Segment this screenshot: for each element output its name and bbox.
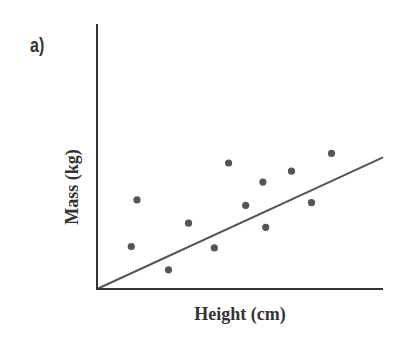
data-point [242, 202, 249, 209]
scatter-chart: Height (cm) Mass (kg) [0, 0, 407, 343]
x-axis-label: Height (cm) [194, 304, 285, 325]
data-point [288, 168, 295, 175]
data-point [328, 150, 335, 157]
trend-line [97, 157, 383, 289]
data-point [259, 179, 266, 186]
data-point [308, 199, 315, 206]
data-point [185, 220, 192, 227]
data-point [262, 224, 269, 231]
data-point [165, 266, 172, 273]
data-point [133, 196, 140, 203]
data-points [128, 150, 335, 274]
data-point [128, 243, 135, 250]
data-point [225, 159, 232, 166]
y-axis-label: Mass (kg) [62, 149, 83, 225]
data-point [211, 244, 218, 251]
